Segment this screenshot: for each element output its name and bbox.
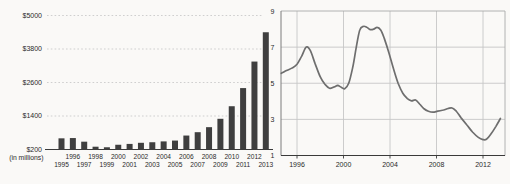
bar-unit-note-label: (in millions) [9, 154, 43, 162]
bar-2002 [138, 143, 144, 150]
bar-x-tick-upper: 2000 [111, 153, 126, 160]
bar-x-tick-lower: 2005 [168, 161, 183, 168]
bar-2003 [149, 142, 155, 149]
bar-x-tick-lower: 1995 [54, 161, 69, 168]
bar-1998 [93, 147, 99, 150]
bar-x-tick-lower: 2003 [145, 161, 160, 168]
bar-y-tick-label: $1400 [23, 112, 43, 119]
bar-1999 [104, 147, 110, 149]
line-y-tick-label: 1 [271, 152, 275, 159]
bar-1995 [59, 138, 65, 149]
charts-canvas: $200$1400$2600$3800$5000(in millions)199… [0, 0, 510, 184]
bar-1997 [81, 142, 87, 150]
bar-x-tick-lower: 2001 [122, 161, 137, 168]
line-x-tick-label: 2004 [382, 161, 398, 168]
bar-2004 [161, 141, 167, 149]
dual-chart-figure: $200$1400$2600$3800$5000(in millions)199… [0, 0, 510, 184]
bar-x-tick-lower: 1999 [100, 161, 115, 168]
bar-x-tick-upper: 2002 [134, 153, 149, 160]
bar-2011 [240, 88, 246, 149]
bar-2007 [195, 132, 201, 149]
line-chart: 1996200020042008201213579 [271, 8, 505, 169]
line-x-tick-label: 1996 [289, 161, 305, 168]
bar-x-tick-lower: 2013 [258, 161, 273, 168]
line-y-tick-label: 9 [271, 8, 275, 15]
bar-y-tick-label: $200 [26, 146, 42, 153]
line-x-tick-label: 2012 [475, 161, 491, 168]
bar-x-tick-upper: 2012 [247, 153, 262, 160]
bar-x-tick-upper: 2004 [156, 153, 171, 160]
line-y-tick-label: 5 [271, 80, 275, 87]
bar-x-tick-upper: 2010 [224, 153, 239, 160]
bar-x-tick-upper: 1998 [88, 153, 103, 160]
bar-2012 [251, 62, 257, 150]
bar-y-tick-label: $3800 [23, 45, 43, 52]
line-y-tick-label: 3 [271, 116, 275, 123]
line-y-tick-label: 7 [271, 44, 275, 51]
bar-x-tick-lower: 1997 [77, 161, 92, 168]
bar-2008 [206, 127, 212, 149]
bar-y-tick-label: $2600 [23, 79, 43, 86]
bar-y-tick-label: $5000 [23, 12, 43, 19]
bar-x-tick-upper: 2006 [179, 153, 194, 160]
bar-x-tick-lower: 2011 [236, 161, 251, 168]
bar-2001 [127, 144, 133, 150]
line-x-tick-label: 2000 [336, 161, 352, 168]
bar-1996 [70, 138, 76, 149]
line-x-tick-label: 2008 [429, 161, 445, 168]
bar-2005 [172, 141, 178, 150]
bar-2006 [183, 136, 189, 150]
bar-2013 [263, 32, 269, 149]
bar-chart: $200$1400$2600$3800$5000(in millions)199… [9, 12, 273, 168]
bar-x-tick-lower: 2009 [213, 161, 228, 168]
bar-2009 [217, 119, 223, 150]
bar-x-tick-upper: 2008 [202, 153, 217, 160]
bar-x-tick-upper: 1996 [66, 153, 81, 160]
bar-2010 [229, 106, 235, 149]
bar-x-tick-lower: 2007 [190, 161, 205, 168]
bar-2000 [115, 145, 121, 150]
